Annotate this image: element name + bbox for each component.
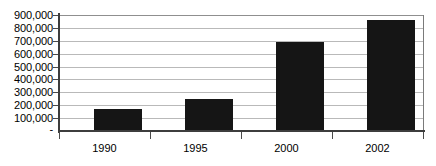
gridline-900000 [59, 15, 424, 16]
y-axis-line [58, 13, 60, 133]
plot-area [59, 15, 424, 131]
y-axis-label-300000: 300,000 [1, 87, 53, 98]
y-axis-label-700000: 700,000 [1, 36, 53, 47]
y-tick-400000 [53, 79, 58, 80]
x-axis-label-1995: 1995 [150, 142, 241, 154]
x-axis-label-1990: 1990 [59, 142, 150, 154]
bar-1990 [94, 109, 142, 131]
x-tick-2 [241, 132, 242, 139]
x-tick-4 [423, 132, 424, 139]
y-tick-200000 [53, 105, 58, 106]
bar-1995 [185, 99, 233, 131]
y-tick-800000 [53, 28, 58, 29]
y-tick-900000 [53, 15, 58, 16]
bar-chart: 900,000 800,000 700,000 600,000 500,000 … [0, 0, 436, 166]
y-axis-label-400000: 400,000 [1, 74, 53, 85]
y-axis-label-100000: 100,000 [1, 113, 53, 124]
y-axis-label-200000: 200,000 [1, 100, 53, 111]
bar-2000 [276, 42, 324, 131]
y-tick-300000 [53, 92, 58, 93]
x-axis-label-2000: 2000 [241, 142, 332, 154]
x-tick-3 [332, 132, 333, 139]
y-tick-500000 [53, 67, 58, 68]
y-tick-100000 [53, 118, 58, 119]
y-axis-label-zero: - [1, 124, 53, 135]
y-tick-700000 [53, 41, 58, 42]
x-axis-label-2002: 2002 [332, 142, 423, 154]
plot-right-border [423, 15, 424, 131]
y-axis-labels: 900,000 800,000 700,000 600,000 500,000 … [0, 0, 53, 166]
y-axis-label-500000: 500,000 [1, 62, 53, 73]
y-axis-label-600000: 600,000 [1, 49, 53, 60]
y-axis-label-900000: 900,000 [1, 10, 53, 21]
bar-2002 [367, 20, 415, 131]
x-tick-1 [150, 132, 151, 139]
y-tick-600000 [53, 54, 58, 55]
x-tick-0 [59, 132, 60, 139]
y-axis-label-800000: 800,000 [1, 23, 53, 34]
